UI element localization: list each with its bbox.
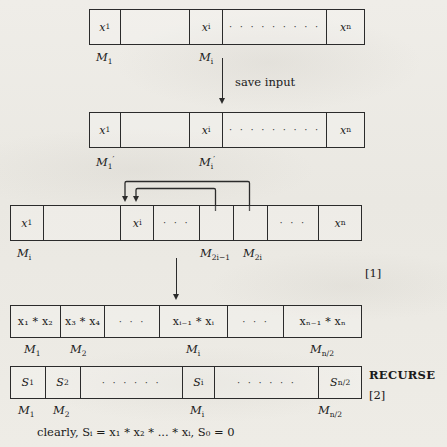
array-cell-ellipsis: · · · · · · xyxy=(81,367,183,398)
label-subscript: i xyxy=(198,349,200,358)
cell-value: · · · xyxy=(163,218,190,228)
multiply-step-arrowhead xyxy=(173,294,179,300)
save-input-arrowhead xyxy=(219,98,225,104)
pairwise-label-m1: M1 xyxy=(24,344,41,358)
label-subscript: 2 xyxy=(65,410,70,419)
array-cell: S1 xyxy=(11,367,46,398)
label-subscript: 1 xyxy=(36,349,41,358)
label-text: M xyxy=(17,246,29,260)
cell-value: x₃ * x₄ xyxy=(65,316,100,327)
label-text: M xyxy=(190,403,202,417)
expanded-array-label-m2i: M2i xyxy=(243,248,262,262)
step-tag-two: [2] xyxy=(369,390,385,402)
prefix-sum-array: S1 S2 · · · · · · Si · · · · · · Sn/2 xyxy=(10,366,362,399)
array-cell: S2 xyxy=(46,367,81,398)
expanded-array-label-mi: Mi xyxy=(17,248,31,262)
cell-subscript: 1 xyxy=(29,379,34,387)
array-cell: x1 xyxy=(11,206,44,240)
array-cell: x₁ * x₂ xyxy=(11,306,61,337)
step-tag-one: [1] xyxy=(365,268,381,280)
cell-value: S xyxy=(56,377,64,388)
label-subscript: i xyxy=(202,410,204,419)
expanded-array-label-m2i-1: M2i−1 xyxy=(200,248,230,262)
figure-caption: clearly, Sᵢ = x₁ * x₂ * ... * xᵢ, S₀ = 0 xyxy=(37,427,235,439)
label-text: M xyxy=(200,246,212,260)
label-text: M xyxy=(186,342,198,356)
array-cell-ellipsis: · · · xyxy=(268,206,320,240)
label-text: M xyxy=(18,403,30,417)
label-subscript: i xyxy=(29,253,31,262)
array-cell: xₙ₋₁ * xₙ xyxy=(284,306,361,337)
array-cell: xᵢ₋₁ * xᵢ xyxy=(160,306,228,337)
label-subscript: 2i−1 xyxy=(212,253,230,262)
array-cell xyxy=(200,206,234,240)
cell-subscript: n/2 xyxy=(338,379,351,387)
label-text: M xyxy=(70,342,82,356)
array-cell: Sn/2 xyxy=(319,367,361,398)
label-text: M xyxy=(318,403,330,417)
prefix-label-mn2: Mn/2 xyxy=(318,405,342,419)
inner-route-arrowhead xyxy=(133,196,139,202)
cell-value: S xyxy=(193,377,201,388)
cell-subscript: i xyxy=(139,219,142,227)
label-subscript: n/2 xyxy=(322,349,334,358)
cell-value: S xyxy=(22,377,30,388)
cell-value: · · · xyxy=(119,317,146,327)
pairwise-label-m2: M2 xyxy=(70,344,87,358)
expanded-array: x1 xi · · · · · · xn xyxy=(10,205,362,241)
array-cell: xn xyxy=(319,206,361,240)
cell-subscript: 1 xyxy=(28,219,33,227)
cell-value: x₁ * x₂ xyxy=(18,316,53,327)
label-text: M xyxy=(243,246,255,260)
pairwise-product-array: x₁ * x₂ x₃ * x₄ · · · xᵢ₋₁ * xᵢ · · · xₙ… xyxy=(10,305,362,338)
array-cell xyxy=(44,206,122,240)
array-cell-ellipsis: · · · xyxy=(105,306,160,337)
array-cell: Si xyxy=(183,367,215,398)
array-cell-ellipsis: · · · xyxy=(154,206,200,240)
prefix-label-m1: M1 xyxy=(18,405,35,419)
label-text: M xyxy=(310,342,322,356)
cell-value: · · · xyxy=(279,218,306,228)
multiply-step-arrow-shaft xyxy=(176,258,177,296)
array-cell: xi xyxy=(121,206,154,240)
cell-value: · · · · · · xyxy=(237,378,296,388)
cell-subscript: i xyxy=(201,379,204,387)
pairwise-label-mn2: Mn/2 xyxy=(310,344,334,358)
cell-value: · · · xyxy=(242,317,269,327)
outer-route-arrowhead xyxy=(122,196,128,202)
cell-value: xᵢ₋₁ * xᵢ xyxy=(173,316,214,327)
array-cell-ellipsis: · · · xyxy=(228,306,285,337)
array-cell xyxy=(234,206,268,240)
cell-value: xₙ₋₁ * xₙ xyxy=(300,316,346,327)
label-subscript: 2i xyxy=(255,253,262,262)
label-subscript: 2 xyxy=(82,349,87,358)
cell-subscript: n xyxy=(341,219,346,227)
label-text: M xyxy=(53,403,65,417)
label-text: M xyxy=(24,342,36,356)
pairwise-label-mi: Mi xyxy=(186,344,200,358)
label-subscript: n/2 xyxy=(330,410,342,419)
label-subscript: 1 xyxy=(30,410,35,419)
prefix-label-mi: Mi xyxy=(190,405,204,419)
recurse-tag: RECURSE xyxy=(369,370,435,382)
cell-value: S xyxy=(330,377,338,388)
array-cell-ellipsis: · · · · · · xyxy=(215,367,319,398)
prefix-label-m2: M2 xyxy=(53,405,70,419)
cell-value: · · · · · · xyxy=(102,378,161,388)
array-cell: x₃ * x₄ xyxy=(61,306,106,337)
cell-subscript: 2 xyxy=(64,379,69,387)
